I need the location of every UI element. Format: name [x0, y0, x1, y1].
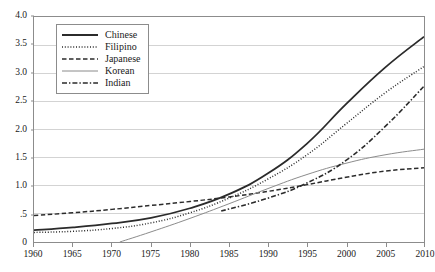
legend-label: Korean: [105, 66, 134, 76]
legend-swatch-filipino-icon: [62, 42, 98, 52]
series-line-indian: [221, 86, 424, 211]
legend-item-japanese[interactable]: Japanese: [62, 53, 141, 65]
legend-item-korean[interactable]: Korean: [62, 65, 141, 77]
y-tick-label: 3.0: [15, 68, 27, 78]
x-tick-mark: [151, 243, 152, 247]
y-tick-label: 2.5: [15, 96, 27, 106]
x-axis: 1960196519701975198019851990199520002005…: [33, 243, 425, 269]
x-tick-mark: [424, 243, 425, 247]
x-tick-label: 1995: [298, 250, 317, 260]
x-tick-label: 1990: [259, 250, 278, 260]
y-tick-label: 1.0: [15, 182, 27, 192]
x-tick-label: 1985: [220, 250, 239, 260]
x-tick-label: 2000: [337, 250, 356, 260]
x-tick-mark: [386, 243, 387, 247]
y-tick-label: 3.5: [15, 40, 27, 50]
y-tick-label: 4.0: [15, 11, 27, 21]
legend-label: Chinese: [105, 30, 137, 40]
legend-label: Indian: [105, 78, 131, 88]
x-tick-label: 1970: [102, 250, 121, 260]
x-tick-mark: [229, 243, 230, 247]
legend-label: Japanese: [105, 54, 141, 64]
x-tick-mark: [111, 243, 112, 247]
y-tick-label: .5: [20, 210, 27, 220]
series-line-korean: [120, 149, 424, 242]
chart-legend: ChineseFilipinoJapaneseKoreanIndian: [56, 24, 149, 94]
legend-item-indian[interactable]: Indian: [62, 77, 141, 89]
x-tick-label: 1980: [180, 250, 199, 260]
legend-item-chinese[interactable]: Chinese: [62, 29, 141, 41]
legend-label: Filipino: [105, 42, 137, 52]
y-axis: 0.51.01.52.02.53.03.54.0: [0, 16, 31, 243]
x-tick-mark: [268, 243, 269, 247]
y-tick-label: 2.0: [15, 125, 27, 135]
x-tick-mark: [190, 243, 191, 247]
legend-swatch-indian-icon: [62, 78, 98, 88]
x-tick-label: 1960: [24, 250, 43, 260]
x-tick-mark: [33, 243, 34, 247]
x-tick-label: 2010: [416, 250, 435, 260]
x-tick-mark: [72, 243, 73, 247]
x-tick-mark: [307, 243, 308, 247]
x-tick-label: 2005: [376, 250, 395, 260]
x-tick-mark: [347, 243, 348, 247]
legend-swatch-korean-icon: [62, 66, 98, 76]
y-tick-label: 1.5: [15, 153, 27, 163]
x-tick-label: 1975: [141, 250, 160, 260]
legend-swatch-chinese-icon: [62, 30, 98, 40]
x-tick-label: 1965: [63, 250, 82, 260]
legend-swatch-japanese-icon: [62, 54, 98, 64]
legend-item-filipino[interactable]: Filipino: [62, 41, 141, 53]
y-tick-label: 0: [22, 238, 27, 248]
